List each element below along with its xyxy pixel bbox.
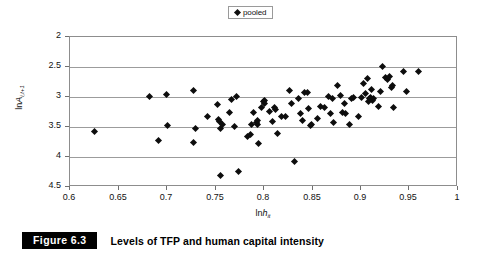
y-axis-title: lnAi,t+1 xyxy=(14,63,25,133)
data-point xyxy=(400,68,407,75)
data-point xyxy=(192,125,199,132)
data-point xyxy=(204,113,211,120)
data-point xyxy=(91,128,98,135)
y-axis-title-var: A xyxy=(14,97,24,103)
data-point xyxy=(297,110,304,117)
data-point xyxy=(272,105,279,112)
data-point xyxy=(274,129,281,136)
x-tick-mark-1 xyxy=(457,186,458,190)
figure-container: pooled lnAi,t+1 lnhit Figure 6.3 Levels … xyxy=(0,0,479,253)
y-tick-mark-3.5 xyxy=(65,96,69,97)
x-tick-label-0.9: 0.9 xyxy=(340,193,380,202)
data-point xyxy=(342,110,349,117)
y-tick-label-3.5: 3 xyxy=(27,91,61,100)
data-point xyxy=(370,95,377,102)
data-point xyxy=(288,99,295,106)
data-point xyxy=(375,103,382,110)
data-point xyxy=(415,68,422,75)
data-point xyxy=(368,86,375,93)
data-point xyxy=(379,63,386,70)
gridline-y-4 xyxy=(70,67,456,68)
figure-caption-row: Figure 6.3 Levels of TFP and human capit… xyxy=(22,232,462,249)
x-tick-label-0.7: 0.7 xyxy=(146,193,186,202)
data-point xyxy=(334,81,341,88)
data-point xyxy=(403,88,410,95)
x-tick-mark-0.65 xyxy=(118,186,119,190)
data-point xyxy=(250,109,257,116)
data-point xyxy=(377,88,384,95)
x-tick-mark-0.7 xyxy=(166,186,167,190)
legend-label-pooled: pooled xyxy=(243,9,266,17)
y-axis-title-prefix: ln xyxy=(14,103,24,110)
x-tick-label-1: 1 xyxy=(437,193,477,202)
data-point xyxy=(231,123,238,130)
x-tick-label-0.8: 0.8 xyxy=(243,193,283,202)
data-point xyxy=(217,171,224,178)
data-point xyxy=(255,140,262,147)
data-point xyxy=(235,168,242,175)
x-tick-mark-0.6 xyxy=(69,186,70,190)
y-tick-mark-4 xyxy=(65,66,69,67)
legend-diamond-icon xyxy=(234,9,241,16)
y-tick-label-4.5: 2 xyxy=(27,31,61,40)
x-tick-mark-0.85 xyxy=(312,186,313,190)
y-tick-label-3: 3.5 xyxy=(27,121,61,130)
data-point xyxy=(330,119,337,126)
plot-area xyxy=(70,37,456,185)
data-point xyxy=(282,113,289,120)
y-tick-label-4: 2.5 xyxy=(27,61,61,70)
x-tick-mark-0.95 xyxy=(408,186,409,190)
x-tick-label-0.75: 0.75 xyxy=(195,193,235,202)
chart-legend: pooled xyxy=(228,6,273,19)
gridline-y-2.5 xyxy=(70,157,456,158)
data-point xyxy=(190,139,197,146)
data-point xyxy=(233,93,240,100)
y-tick-mark-3 xyxy=(65,126,69,127)
x-axis-title: lnhit xyxy=(69,208,457,219)
data-point xyxy=(291,158,298,165)
x-tick-label-0.95: 0.95 xyxy=(388,193,428,202)
plot-frame xyxy=(69,36,457,186)
data-point xyxy=(314,115,321,122)
x-tick-label-0.65: 0.65 xyxy=(98,193,138,202)
data-point xyxy=(155,137,162,144)
y-tick-mark-4.5 xyxy=(65,36,69,37)
x-tick-label-0.85: 0.85 xyxy=(292,193,332,202)
x-axis-title-sub: it xyxy=(268,213,271,219)
data-point xyxy=(146,93,153,100)
x-tick-mark-0.75 xyxy=(215,186,216,190)
data-point xyxy=(305,105,312,112)
gridline-y-3 xyxy=(70,127,456,128)
data-point xyxy=(214,101,221,108)
x-tick-mark-0.8 xyxy=(263,186,264,190)
x-tick-mark-0.9 xyxy=(360,186,361,190)
x-axis-title-prefix: ln xyxy=(255,208,262,218)
data-point xyxy=(269,117,276,124)
data-point xyxy=(355,113,362,120)
data-point xyxy=(341,99,348,106)
data-point xyxy=(327,110,334,117)
data-point xyxy=(299,117,306,124)
y-tick-label-2: 4.5 xyxy=(27,181,61,190)
y-tick-mark-2.5 xyxy=(65,156,69,157)
y-tick-label-2.5: 4 xyxy=(27,151,61,160)
y-axis-title-sub: i,t+1 xyxy=(19,85,25,97)
x-tick-label-0.6: 0.6 xyxy=(49,193,89,202)
data-point xyxy=(190,87,197,94)
figure-number-badge: Figure 6.3 xyxy=(22,232,97,249)
data-point xyxy=(389,104,396,111)
data-point xyxy=(286,87,293,94)
x-axis-title-var: h xyxy=(263,208,268,218)
figure-caption-text: Levels of TFP and human capital intensit… xyxy=(111,235,324,247)
data-point xyxy=(226,108,233,115)
data-point xyxy=(304,89,311,96)
